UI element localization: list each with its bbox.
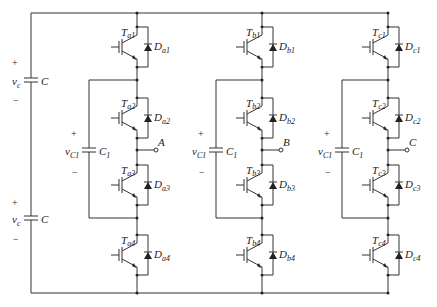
diode-label: Db3 <box>278 178 295 193</box>
diode-label: Da4 <box>153 248 170 263</box>
diode-icon <box>395 44 403 51</box>
switch-b1: Tb1Db1 <box>236 26 295 69</box>
minus-sign: − <box>199 167 205 178</box>
transistor-label: Tc1 <box>372 26 386 40</box>
leg-a: +−vC1C1ATa1Da1Ta2Da2Ta3Da3Ta4Da4 <box>65 12 170 295</box>
output-label: A <box>157 136 165 148</box>
diode-icon <box>144 115 152 122</box>
output-label: C <box>409 136 417 148</box>
plus-sign: + <box>12 57 18 68</box>
flying-capacitor-b: +−vC1C1 <box>192 128 237 178</box>
switch-c3: Tc3Dc3 <box>362 164 421 207</box>
diode-icon <box>269 182 277 189</box>
diode-icon <box>269 44 277 51</box>
diode-icon <box>144 182 152 189</box>
diode-icon <box>269 115 277 122</box>
diode-icon <box>144 252 152 259</box>
switch-a4: Ta4Da4 <box>111 234 170 277</box>
output-label: B <box>283 136 290 148</box>
minus-sign: − <box>325 167 331 178</box>
flying-capacitor-a: +−vC1C1 <box>65 128 110 178</box>
flying-cap-voltage-label: vC1 <box>318 145 332 160</box>
leg-c: +−vC1C1CTc1Dc1Tc2Dc2Tc3Dc3Tc4Dc4 <box>318 12 421 295</box>
flying-cap-name: C1 <box>99 145 110 160</box>
diode-icon <box>269 252 277 259</box>
flying-capacitor-c: +−vC1C1 <box>318 128 363 178</box>
transistor-label: Ta4 <box>121 234 135 248</box>
transistor-label: Tb2 <box>246 97 260 111</box>
diode-label: Db4 <box>278 248 295 263</box>
capacitor-label: C <box>41 213 49 225</box>
transistor-label: Ta3 <box>121 164 135 178</box>
diode-label: Dc1 <box>404 40 421 55</box>
transistor-label: Tb1 <box>246 26 260 40</box>
diode-label: Da1 <box>153 40 170 55</box>
capacitor-label: C <box>41 75 49 87</box>
switch-a3: Ta3Da3 <box>111 164 170 207</box>
transistor-label: Tc4 <box>372 234 386 248</box>
svg-text:vc: vc <box>12 75 21 90</box>
circuit-diagram: + vc C − + vc C − +−vC1C1ATa1Da1Ta2Da2Ta… <box>0 0 437 307</box>
transistor-label: Ta1 <box>121 26 135 40</box>
plus-sign: + <box>71 128 77 139</box>
diode-icon <box>144 44 152 51</box>
diode-icon <box>395 252 403 259</box>
diode-label: Dc3 <box>404 178 421 193</box>
transistor-label: Tb3 <box>246 164 260 178</box>
transistor-label: Tc2 <box>372 97 386 111</box>
minus-sign: − <box>13 234 19 245</box>
switch-c4: Tc4Dc4 <box>362 234 421 277</box>
diode-icon <box>395 115 403 122</box>
plus-sign: + <box>12 197 18 208</box>
flying-cap-voltage-label: vC1 <box>65 145 79 160</box>
diode-label: Db2 <box>278 111 295 126</box>
minus-sign: − <box>13 95 19 106</box>
transistor-label: Ta2 <box>121 97 135 111</box>
diode-label: Db1 <box>278 40 295 55</box>
switch-c2: Tc2Dc2 <box>362 97 421 140</box>
diode-label: Dc4 <box>404 248 421 263</box>
switch-b3: Tb3Db3 <box>236 164 295 207</box>
flying-cap-name: C1 <box>226 145 237 160</box>
plus-sign: + <box>198 128 204 139</box>
diode-label: Dc2 <box>404 111 421 126</box>
transistor-label: Tc3 <box>372 164 386 178</box>
plus-sign: + <box>324 128 330 139</box>
switch-b4: Tb4Db4 <box>236 234 295 277</box>
leg-b: +−vC1C1BTb1Db1Tb2Db2Tb3Db3Tb4Db4 <box>192 12 295 295</box>
switch-c1: Tc1Dc1 <box>362 26 421 69</box>
diode-label: Da2 <box>153 111 170 126</box>
minus-sign: − <box>72 167 78 178</box>
flying-cap-voltage-label: vC1 <box>192 145 206 160</box>
switch-a1: Ta1Da1 <box>111 26 170 69</box>
switch-b2: Tb2Db2 <box>236 97 295 140</box>
diode-icon <box>395 182 403 189</box>
svg-text:vc: vc <box>12 213 21 228</box>
dc-bus <box>31 13 388 293</box>
switch-a2: Ta2Da2 <box>111 97 170 140</box>
transistor-label: Tb4 <box>246 234 260 248</box>
diode-label: Da3 <box>153 178 170 193</box>
flying-cap-name: C1 <box>352 145 363 160</box>
